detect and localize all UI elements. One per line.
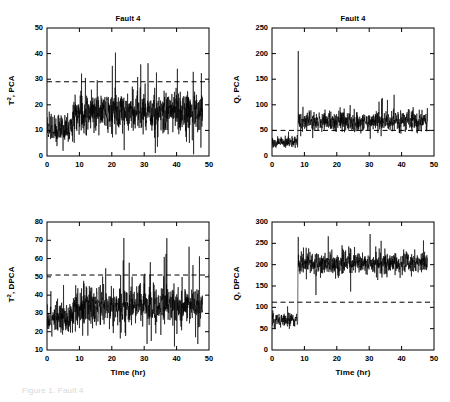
y-tick-label: 100 bbox=[242, 302, 268, 311]
plot-panel-q-dpca: Q, DPCATime (hr)010203040500501001502002… bbox=[0, 0, 450, 402]
figure-caption: Figure 1. Fault 4 bbox=[22, 386, 322, 398]
y-tick-label: 150 bbox=[242, 281, 268, 290]
data-series-line bbox=[272, 234, 428, 329]
axes-frame bbox=[272, 222, 434, 350]
x-tick-label: 10 bbox=[291, 354, 317, 363]
y-tick-label: 200 bbox=[242, 260, 268, 269]
x-axis-label-q-dpca: Time (hr) bbox=[272, 368, 434, 377]
y-tick-label: 0 bbox=[242, 345, 268, 354]
y-axis-label-main: Q bbox=[232, 294, 241, 300]
y-axis-label-suffix: , DPCA bbox=[232, 266, 241, 294]
y-tick-label: 250 bbox=[242, 238, 268, 247]
x-tick-label: 20 bbox=[324, 354, 350, 363]
x-tick-label: 40 bbox=[389, 354, 415, 363]
x-tick-label: 0 bbox=[259, 354, 285, 363]
x-tick-label: 30 bbox=[356, 354, 382, 363]
y-tick-label: 300 bbox=[242, 217, 268, 226]
y-tick-label: 50 bbox=[242, 324, 268, 333]
y-axis-label-q-dpca: Q, DPCA bbox=[232, 244, 241, 324]
x-tick-label: 50 bbox=[421, 354, 447, 363]
figure-container: Fault 4T2, PCA0102030405001020304050Faul… bbox=[0, 0, 450, 402]
plot-canvas-q-dpca bbox=[0, 0, 450, 402]
